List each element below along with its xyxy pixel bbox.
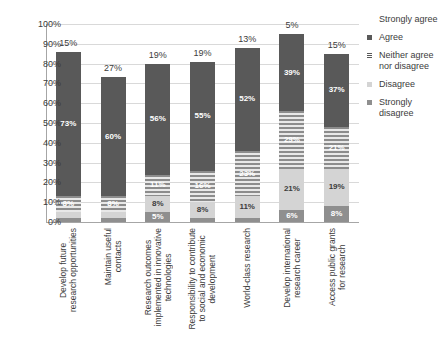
segment-value-label: 19% <box>324 183 349 191</box>
segment-value-label: 11% <box>145 181 170 189</box>
y-axis-tick: 70% <box>21 78 61 88</box>
legend-item[interactable]: Disagree <box>366 79 445 90</box>
segment-value-label: 60% <box>101 133 126 141</box>
x-axis-category-label: Develop international research career <box>270 228 315 356</box>
legend-swatch-icon <box>366 51 375 60</box>
bar-segment-neither[interactable]: 8% <box>101 196 126 212</box>
segment-value-label: 37% <box>324 86 349 94</box>
bar-segment-neither[interactable]: 11% <box>145 175 170 197</box>
bar-column[interactable]: 6%21%29%39%5% <box>279 24 304 222</box>
bar-segment-disagree[interactable]: 8% <box>190 202 215 218</box>
x-axis-category-label: World-class research <box>225 228 270 356</box>
bar-segment-disagree[interactable]: 19% <box>324 169 349 207</box>
bar-stack: 6%21%29%39% <box>279 34 304 222</box>
category-text: World-class research <box>242 228 252 308</box>
category-text: Access public grants for research <box>327 228 347 306</box>
segment-value-label: 29% <box>279 136 304 144</box>
segment-value-label: 8% <box>101 200 126 208</box>
bar-segment-strongly-disagree[interactable]: 5% <box>145 212 170 222</box>
segment-value-label: 21% <box>279 185 304 193</box>
bar-top-value-label: 19% <box>133 50 182 60</box>
legend-label: Neither agree nor disagree <box>379 50 445 72</box>
bar-segment-disagree[interactable]: 11% <box>235 196 260 218</box>
segment-value-label: 23% <box>235 170 260 178</box>
x-axis-category-label: Access public grants for research <box>314 228 359 356</box>
x-axis-category-label: Research outcomes implemented in innovat… <box>135 228 180 356</box>
bar-column[interactable]: 5%8%11%56%19% <box>145 24 170 222</box>
x-axis-line <box>46 222 359 223</box>
bar-segment-agree[interactable]: 37% <box>324 54 349 127</box>
segment-value-label: 55% <box>190 112 215 120</box>
category-text: Responsibility to contribute to social a… <box>187 228 217 330</box>
legend-item[interactable]: Strongly disagree <box>366 97 445 119</box>
category-text: Research outcomes implemented in innovat… <box>143 228 173 326</box>
segment-value-label: 8% <box>324 210 349 218</box>
bar-segment-disagree[interactable]: 8% <box>145 196 170 212</box>
segment-value-label: 5% <box>145 213 170 221</box>
legend-label: Agree <box>379 32 403 43</box>
bar-segment-neither[interactable]: 21% <box>324 127 349 169</box>
bar-stack: 5%8%11%56% <box>145 64 170 222</box>
bar-segment-agree[interactable]: 60% <box>101 77 126 196</box>
legend-swatch-icon <box>366 80 375 89</box>
legend-swatch-icon <box>366 33 375 42</box>
category-text: Maintain useful contacts <box>103 228 123 285</box>
segment-value-label: 21% <box>324 144 349 152</box>
bar-top-value-label: 27% <box>89 63 138 73</box>
bar-segment-strongly-disagree[interactable] <box>235 218 260 222</box>
bar-segment-strongly-disagree[interactable] <box>101 218 126 222</box>
segment-value-label: 11% <box>235 203 260 211</box>
segment-value-label: 39% <box>279 69 304 77</box>
bar-column[interactable]: 11%23%52%13% <box>235 24 260 222</box>
bar-segment-neither[interactable]: 16% <box>190 171 215 203</box>
x-axis-category-label: Responsibility to contribute to social a… <box>180 228 225 356</box>
bar-column[interactable]: 8%16%55%19% <box>190 24 215 222</box>
y-axis-tick: 30% <box>21 158 61 168</box>
bar-top-value-label: 13% <box>223 34 272 44</box>
bar-segment-neither[interactable]: 29% <box>279 111 304 168</box>
bar-segment-neither[interactable]: 23% <box>235 151 260 197</box>
x-axis-category-label: Maintain useful contacts <box>91 228 136 356</box>
y-axis-tick: 90% <box>21 39 61 49</box>
y-axis-tick: 0% <box>21 217 61 227</box>
bar-segment-disagree[interactable] <box>101 212 126 218</box>
y-axis-tick: 10% <box>21 197 61 207</box>
y-axis-tick: 60% <box>21 98 61 108</box>
bar-stack: 8%60% <box>101 77 126 222</box>
y-axis-tick: 100% <box>21 19 61 29</box>
bar-segment-disagree[interactable]: 21% <box>279 169 304 211</box>
stacked-bar-chart: 8%73%15%8%60%27%5%8%11%56%19%8%16%55%19%… <box>0 0 445 360</box>
legend-swatch-icon <box>366 98 375 107</box>
bar-stack: 11%23%52% <box>235 48 260 222</box>
chart-legend: Strongly agreeAgreeNeither agree nor dis… <box>366 14 445 126</box>
bar-segment-agree[interactable]: 52% <box>235 48 260 151</box>
bar-segment-strongly-disagree[interactable]: 8% <box>324 206 349 222</box>
bar-segment-strongly-disagree[interactable]: 6% <box>279 210 304 222</box>
x-axis-category-label: Develop future research opportunities <box>46 228 91 356</box>
legend-label: Strongly disagree <box>379 97 445 119</box>
bar-segment-agree[interactable]: 55% <box>190 62 215 171</box>
legend-swatch-icon <box>366 15 375 24</box>
segment-value-label: 8% <box>145 200 170 208</box>
bar-stack: 8%19%21%37% <box>324 54 349 222</box>
bar-column[interactable]: 8%19%21%37%15% <box>324 24 349 222</box>
bar-column[interactable]: 8%60%27% <box>101 24 126 222</box>
y-axis-tick: 20% <box>21 177 61 187</box>
legend-label: Strongly agree <box>379 14 438 25</box>
category-text: Develop international research career <box>282 228 302 308</box>
segment-value-label: 16% <box>190 182 215 190</box>
bar-stack: 8%16%55% <box>190 62 215 222</box>
bar-segment-agree[interactable]: 56% <box>145 64 170 175</box>
segment-value-label: 52% <box>235 95 260 103</box>
bar-top-value-label: 5% <box>267 20 316 30</box>
legend-item[interactable]: Strongly agree <box>366 14 445 25</box>
bar-top-value-label: 15% <box>312 40 361 50</box>
segment-value-label: 8% <box>190 206 215 214</box>
bar-segment-strongly-disagree[interactable] <box>190 218 215 222</box>
y-axis-tick: 50% <box>21 118 61 128</box>
bar-segment-agree[interactable]: 39% <box>279 34 304 111</box>
legend-item[interactable]: Agree <box>366 32 445 43</box>
bar-top-value-label: 19% <box>178 48 227 58</box>
y-axis-tick: 80% <box>21 59 61 69</box>
legend-item[interactable]: Neither agree nor disagree <box>366 50 445 72</box>
